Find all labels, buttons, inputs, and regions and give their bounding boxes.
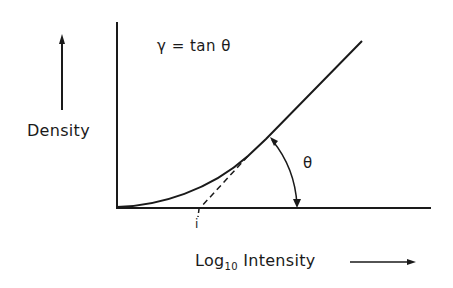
inertia-marker-line (198, 209, 199, 217)
theta-arc-arrowhead-top (270, 137, 278, 146)
theta-arc-arrowhead-bottom (293, 199, 301, 208)
inertia-label: i (195, 218, 198, 230)
intensity-arrow-icon (407, 259, 416, 265)
density-arrow-icon (59, 34, 65, 44)
x-axis-label-intensity: Intensity (238, 251, 316, 270)
theta-arc (272, 140, 297, 205)
x-axis-label-log: Log (195, 251, 224, 270)
extrapolation-dashed-line (200, 156, 248, 208)
density-curve (117, 41, 362, 207)
x-axis-label: Log10 Intensity (195, 253, 316, 272)
gamma-formula: γ = tan θ (157, 39, 231, 54)
y-axis-label: Density (27, 123, 90, 139)
theta-label: θ (303, 156, 312, 171)
x-axis-label-subscript: 10 (224, 261, 237, 272)
